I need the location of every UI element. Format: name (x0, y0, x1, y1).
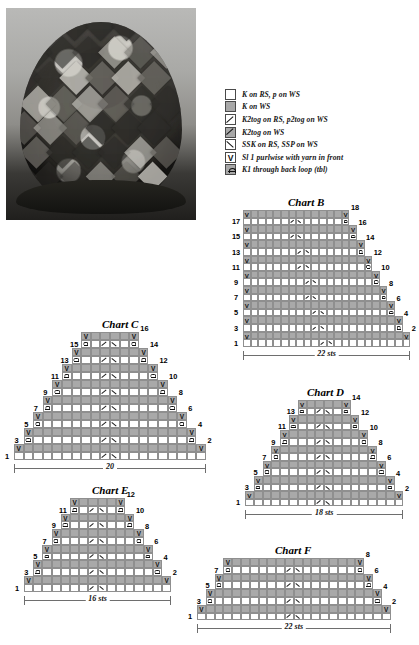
chart-cell (251, 225, 259, 233)
tbl-symbol-icon (140, 357, 148, 363)
chart-cell (281, 332, 289, 340)
ssk-symbol-icon (325, 439, 332, 445)
legend-row: K on WS (225, 101, 343, 114)
chart-cell (266, 316, 274, 324)
chart-cell (129, 364, 139, 372)
chart-cell (81, 380, 91, 388)
row-number-label: 8 (379, 438, 389, 447)
chart-cell (266, 210, 274, 218)
chart-cell (372, 278, 380, 286)
chart-cell (120, 372, 130, 380)
chart-cell (276, 566, 285, 574)
chart-e-title: Chart E (92, 484, 128, 496)
chart-cell (296, 309, 304, 317)
chart-cell (79, 514, 88, 522)
chart-cell (134, 584, 143, 592)
chart-cell (311, 566, 320, 574)
sl1-symbol-icon: V (290, 416, 297, 422)
chart-cell (315, 491, 324, 499)
row-number-label: 15 (69, 340, 79, 349)
chart-cell (120, 436, 130, 444)
chart-cell (342, 286, 350, 294)
chart-cell (296, 248, 304, 256)
chart-cell (79, 545, 88, 553)
chart-cell (281, 210, 289, 218)
chart-cell (349, 294, 357, 302)
chart-cell (307, 400, 316, 408)
chart-cell (153, 584, 162, 592)
chart-cell (359, 438, 368, 446)
chart-cell (273, 278, 281, 286)
chart-cell (33, 420, 43, 428)
chart-cell (129, 428, 139, 436)
chart-cell (258, 263, 266, 271)
chart-cell (334, 294, 342, 302)
chart-cell (386, 491, 395, 499)
chart-cell (289, 218, 297, 226)
chart-cell (267, 558, 276, 566)
chart-cell (355, 566, 364, 574)
chart-cell (324, 476, 333, 484)
chart-cell (342, 278, 350, 286)
chart-cell (241, 574, 250, 582)
k2tog-symbol-icon (101, 389, 109, 395)
chart-cell (289, 438, 298, 446)
chart-cell (273, 263, 281, 271)
chart-cell (196, 452, 206, 460)
chart-cell (319, 218, 327, 226)
chart-cell (243, 248, 251, 256)
chart-cell (351, 499, 360, 507)
chart-cell (349, 248, 357, 256)
chart-cell (98, 506, 107, 514)
chart-cell (223, 589, 232, 597)
row-number-label: 6 (375, 566, 385, 575)
chart-cell (206, 605, 215, 613)
chart-cell: V (342, 400, 351, 408)
chart-cell (365, 271, 373, 279)
chart-cell (116, 521, 125, 529)
chart-cell (251, 339, 259, 347)
chart-cell (250, 581, 259, 589)
chart-cell (258, 218, 266, 226)
chart-cell (129, 356, 139, 364)
row-number-label: 12 (160, 356, 170, 365)
chart-cell (276, 589, 285, 597)
chart-cell (380, 339, 388, 347)
chart-cell (347, 574, 356, 582)
chart-cell (307, 446, 316, 454)
chart-cell (315, 438, 324, 446)
chart-cell (258, 233, 266, 241)
chart-cell (359, 468, 368, 476)
chart-cell (158, 452, 168, 460)
chart-cell (333, 446, 342, 454)
chart-cell (251, 271, 259, 279)
chart-cell (281, 309, 289, 317)
chart-cell (148, 396, 158, 404)
chart-cell (232, 597, 241, 605)
chart-cell (320, 558, 329, 566)
chart-cell (241, 581, 250, 589)
chart-cell (296, 256, 304, 264)
chart-cell (327, 218, 335, 226)
legend-row: SSK on RS, SSP on WS (225, 138, 343, 151)
chart-cell (266, 324, 274, 332)
chart-cell (307, 438, 316, 446)
tbl-symbol-icon (374, 598, 381, 604)
row-number-label: 13 (231, 248, 241, 257)
row-number-label: 5 (231, 308, 241, 317)
legend-row: K1 through back loop (tbl) (225, 164, 343, 177)
chart-cell (311, 263, 319, 271)
chart-cell (162, 584, 171, 592)
chart-cell (243, 339, 251, 347)
chart-cell (266, 301, 274, 309)
chart-cell: V (243, 225, 251, 233)
chart-cell (266, 263, 274, 271)
chart-cell (100, 340, 110, 348)
chart-cell (289, 453, 298, 461)
chart-cell (273, 225, 281, 233)
tbl-symbol-icon (34, 569, 41, 575)
chart-cell (52, 576, 61, 584)
chart-cell (110, 332, 120, 340)
chart-cell (289, 301, 297, 309)
chart-cell (251, 240, 259, 248)
